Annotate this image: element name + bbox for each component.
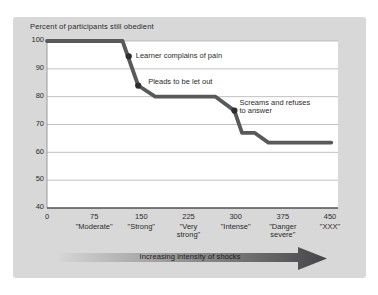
figure-page: Percent of participants still obedient 4… xyxy=(0,0,378,295)
data-point-dot xyxy=(135,82,141,88)
plot-svg xyxy=(0,0,378,295)
data-point-dot xyxy=(126,53,132,59)
data-point-dot xyxy=(231,107,237,113)
chart-title: Percent of participants still obedient xyxy=(30,22,154,31)
intensity-arrow-label: Increasing intensity of shocks xyxy=(70,252,310,261)
